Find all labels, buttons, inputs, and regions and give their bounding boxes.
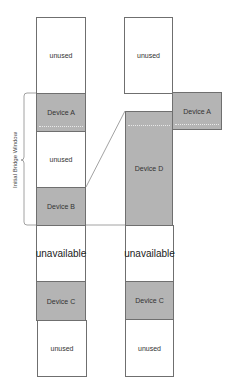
connector-overlay [0,0,242,380]
bridge-window-label: Initial Bridge Window [12,125,18,195]
expansion-line-top [86,111,125,187]
bridge-window-brace [21,93,36,225]
